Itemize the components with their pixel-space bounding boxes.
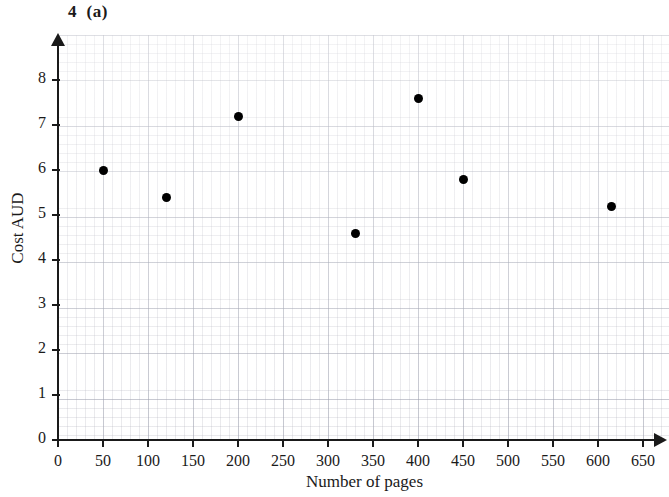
x-axis-tick-label: 0 <box>35 452 81 470</box>
y-axis-title: Cost AUD <box>8 173 28 283</box>
x-axis-tick-label: 450 <box>440 452 486 470</box>
x-axis-tick-label: 600 <box>575 452 621 470</box>
x-axis-tick <box>192 440 194 447</box>
x-axis-tick-label: 250 <box>260 452 306 470</box>
x-axis-tick-label: 350 <box>350 452 396 470</box>
x-axis-tick-label: 500 <box>485 452 531 470</box>
x-axis-tick-label: 550 <box>530 452 576 470</box>
x-axis-tick <box>147 440 149 447</box>
x-axis-tick <box>417 440 419 447</box>
y-axis-tick <box>52 124 60 126</box>
data-point <box>607 202 616 211</box>
x-axis-tick <box>237 440 239 447</box>
figure-title: 4 (a) <box>68 2 108 22</box>
y-axis-tick <box>52 439 60 441</box>
y-axis-tick <box>52 79 60 81</box>
data-point <box>99 166 108 175</box>
x-axis-tick <box>597 440 599 447</box>
x-axis-tick <box>282 440 284 447</box>
data-point <box>414 94 423 103</box>
x-axis-tick <box>552 440 554 447</box>
data-point <box>351 229 360 238</box>
x-axis-tick <box>102 440 104 447</box>
x-axis-tick <box>57 440 59 447</box>
x-axis-tick-label: 200 <box>215 452 261 470</box>
y-axis-tick <box>52 214 60 216</box>
y-axis-tick <box>52 394 60 396</box>
y-axis-tick <box>52 304 60 306</box>
x-axis-tick <box>642 440 644 447</box>
x-axis-tick <box>372 440 374 447</box>
x-axis-tick-label: 650 <box>620 452 666 470</box>
x-axis-title: Number of pages <box>0 472 669 492</box>
y-axis-tick <box>52 349 60 351</box>
y-axis-tick-label: 8 <box>24 69 46 87</box>
y-axis-line <box>57 46 59 441</box>
y-axis-tick-label: 2 <box>24 339 46 357</box>
y-axis-tick-label: 3 <box>24 294 46 312</box>
y-axis-arrowhead-icon <box>51 33 65 46</box>
data-point <box>162 193 171 202</box>
data-point <box>459 175 468 184</box>
y-axis-tick <box>52 259 60 261</box>
plot-area <box>58 35 669 440</box>
x-axis-tick <box>327 440 329 447</box>
x-axis-arrowhead-icon <box>654 433 667 447</box>
y-axis-tick-label: 7 <box>24 114 46 132</box>
grid-major-lines <box>58 35 669 440</box>
data-point <box>234 112 243 121</box>
x-axis-tick-label: 400 <box>395 452 441 470</box>
x-axis-tick-label: 100 <box>125 452 171 470</box>
x-axis-tick <box>462 440 464 447</box>
y-axis-tick <box>52 169 60 171</box>
x-axis-tick <box>507 440 509 447</box>
y-axis-tick-label: 0 <box>24 429 46 447</box>
y-axis-tick-label: 1 <box>24 384 46 402</box>
x-axis-tick-label: 150 <box>170 452 216 470</box>
x-axis-tick-label: 300 <box>305 452 351 470</box>
x-axis-tick-label: 50 <box>80 452 126 470</box>
